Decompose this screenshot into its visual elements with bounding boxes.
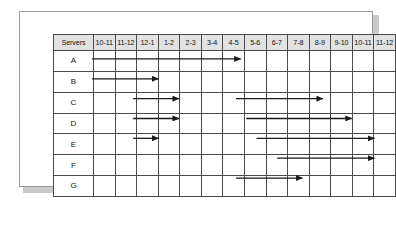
cell xyxy=(137,155,159,176)
cell xyxy=(331,51,353,72)
cell xyxy=(223,113,245,134)
cell xyxy=(158,155,180,176)
cell xyxy=(288,92,310,113)
cell xyxy=(137,134,159,155)
cell xyxy=(288,71,310,92)
cell xyxy=(94,92,116,113)
row-label-5: F xyxy=(54,155,94,176)
cell xyxy=(115,176,137,197)
table-row: C xyxy=(54,92,396,113)
cell xyxy=(244,134,266,155)
server-allocation-chart: Servers 10-11 11-12 12-1 1-2 2-3 3-4 4-5… xyxy=(53,34,380,188)
cell xyxy=(309,134,331,155)
cell xyxy=(288,51,310,72)
cell xyxy=(201,51,223,72)
cell xyxy=(223,51,245,72)
cell xyxy=(94,113,116,134)
cell xyxy=(158,113,180,134)
cell xyxy=(94,155,116,176)
cell xyxy=(266,51,288,72)
header-cell-slot-10: 8-9 xyxy=(309,35,331,51)
cell xyxy=(180,113,202,134)
cell xyxy=(94,51,116,72)
cell xyxy=(201,71,223,92)
cell xyxy=(158,176,180,197)
cell xyxy=(266,176,288,197)
cell xyxy=(288,155,310,176)
header-cell-slot-12: 10-11 xyxy=(352,35,374,51)
cell xyxy=(244,51,266,72)
cell xyxy=(94,71,116,92)
cell xyxy=(331,71,353,92)
schedule-grid: Servers 10-11 11-12 12-1 1-2 2-3 3-4 4-5… xyxy=(53,34,396,197)
cell xyxy=(288,176,310,197)
cell xyxy=(180,92,202,113)
cell xyxy=(201,134,223,155)
cell xyxy=(309,113,331,134)
header-cell-slot-4: 2-3 xyxy=(180,35,202,51)
cell xyxy=(374,71,396,92)
cell xyxy=(374,176,396,197)
table-row: B xyxy=(54,71,396,92)
table-row: G xyxy=(54,176,396,197)
cell xyxy=(115,113,137,134)
cell xyxy=(309,155,331,176)
cell xyxy=(374,134,396,155)
cell xyxy=(352,176,374,197)
row-label-4: E xyxy=(54,134,94,155)
cell xyxy=(352,51,374,72)
header-cell-slot-8: 6-7 xyxy=(266,35,288,51)
cell xyxy=(331,92,353,113)
cell xyxy=(331,134,353,155)
table-row: A xyxy=(54,51,396,72)
header-cell-slot-1: 11-12 xyxy=(115,35,137,51)
cell xyxy=(180,176,202,197)
cell xyxy=(374,113,396,134)
cell xyxy=(94,176,116,197)
table-row: E xyxy=(54,134,396,155)
cell xyxy=(158,51,180,72)
cell xyxy=(137,92,159,113)
cell xyxy=(158,134,180,155)
cell xyxy=(331,113,353,134)
cell xyxy=(331,176,353,197)
header-cell-slot-7: 5-6 xyxy=(244,35,266,51)
cell xyxy=(244,155,266,176)
cell xyxy=(288,134,310,155)
cell xyxy=(266,134,288,155)
cell xyxy=(266,71,288,92)
header-row: Servers 10-11 11-12 12-1 1-2 2-3 3-4 4-5… xyxy=(54,35,396,51)
cell xyxy=(137,176,159,197)
cell xyxy=(94,134,116,155)
cell xyxy=(266,155,288,176)
cell xyxy=(331,155,353,176)
cell xyxy=(180,71,202,92)
cell xyxy=(180,134,202,155)
table-row: D xyxy=(54,113,396,134)
header-cell-slot-5: 3-4 xyxy=(201,35,223,51)
header-cell-slot-0: 10-11 xyxy=(94,35,116,51)
header-cell-servers: Servers xyxy=(54,35,94,51)
cell xyxy=(309,92,331,113)
cell xyxy=(223,155,245,176)
header-cell-slot-13: 11-12 xyxy=(374,35,396,51)
cell xyxy=(115,71,137,92)
cell xyxy=(115,92,137,113)
cell xyxy=(158,92,180,113)
row-label-3: D xyxy=(54,113,94,134)
cell xyxy=(223,176,245,197)
cell xyxy=(201,113,223,134)
header-cell-slot-2: 12-1 xyxy=(137,35,159,51)
cell xyxy=(266,92,288,113)
cell xyxy=(137,113,159,134)
cell xyxy=(201,155,223,176)
cell xyxy=(223,92,245,113)
header-cell-slot-9: 7-8 xyxy=(288,35,310,51)
row-label-2: C xyxy=(54,92,94,113)
cell xyxy=(352,113,374,134)
header-cell-slot-6: 4-5 xyxy=(223,35,245,51)
cell xyxy=(288,113,310,134)
cell xyxy=(244,113,266,134)
cell xyxy=(374,155,396,176)
cell xyxy=(352,155,374,176)
